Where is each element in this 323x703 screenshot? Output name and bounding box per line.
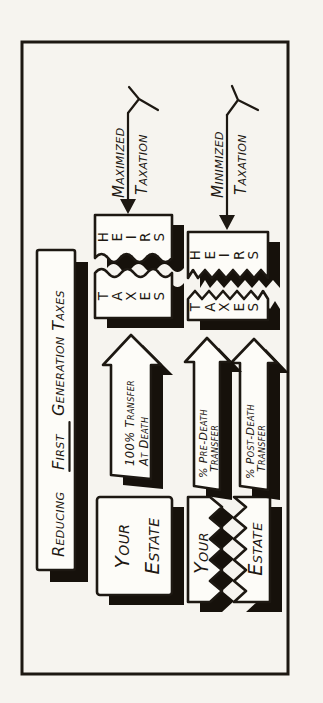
transfer-arrow-1-line1: 100% Transfer bbox=[123, 380, 137, 466]
title-part-reducing: Reducing bbox=[49, 492, 68, 557]
scanned-page: Reducing First Generation Taxes Your Est… bbox=[0, 0, 323, 703]
maximized-label-line1: Maximized bbox=[110, 127, 128, 198]
rotated-diagram-canvas: Reducing First Generation Taxes Your Est… bbox=[0, 0, 323, 703]
estate-box-2-line1: Your bbox=[190, 532, 212, 574]
title-part-first: First bbox=[49, 433, 68, 470]
estate-box-1-line2: Estate bbox=[140, 517, 164, 574]
arrowhead-icon-2 bbox=[219, 215, 235, 230]
maximized-label-line2: Taxation bbox=[133, 134, 151, 195]
minimized-label-line2: Taxation bbox=[232, 134, 250, 195]
transfer-arrow-1-line2: At Death bbox=[137, 417, 151, 467]
pre-death-arrow-line2: Transfer bbox=[208, 425, 221, 472]
arrowhead-icon-1 bbox=[120, 199, 136, 214]
title-banner: Reducing First Generation Taxes bbox=[37, 250, 88, 582]
row-minimized: Your Estate % Pre-Death Transfer % Post-… bbox=[185, 86, 289, 612]
title-part-generation-taxes: Generation Taxes bbox=[49, 290, 68, 416]
post-death-arrow-line2: Transfer bbox=[255, 425, 268, 472]
row-maximized: Your Estate 100% Transfer At Death TAXES… bbox=[95, 87, 184, 605]
taxes-box-1-label: TAXES bbox=[95, 291, 167, 302]
estate-box-2-line2: Estate bbox=[244, 522, 266, 576]
branch-fork-icon-2 bbox=[227, 86, 258, 115]
minimized-label-line1: Minimized bbox=[209, 131, 227, 198]
taxes-box-2-label: TAXES bbox=[187, 302, 261, 313]
branch-fork-icon-1 bbox=[128, 87, 158, 113]
estate-box-1-line1: Your bbox=[110, 524, 134, 569]
tax-diagram: Reducing First Generation Taxes Your Est… bbox=[0, 0, 323, 703]
